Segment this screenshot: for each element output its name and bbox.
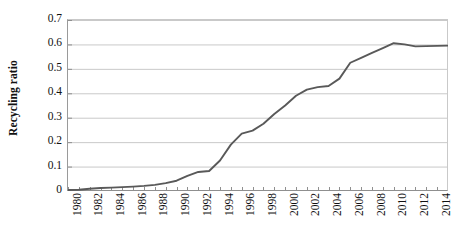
y-axis-tick-label: 0.4	[26, 87, 67, 99]
y-axis-tick-label: 0.7	[26, 13, 67, 25]
recycling-ratio-line-chart: Recycling ratio 0.70.60.50.40.30.20.10 1…	[0, 0, 462, 243]
x-axis-tick-label: 1988	[158, 193, 170, 216]
y-axis-tick-label: 0.3	[26, 111, 67, 123]
data-series-line	[68, 43, 448, 190]
x-axis-tick-label: 1980	[72, 193, 84, 216]
y-axis-title-text: Recycling ratio	[7, 60, 19, 136]
x-axis-tick-label: 2014	[441, 193, 453, 216]
y-axis-tick-label: 0.6	[26, 38, 67, 50]
x-axis-tick-label: 1996	[245, 193, 257, 216]
x-axis-tick-label: 1994	[224, 193, 236, 216]
y-axis-tick-marks	[68, 21, 72, 192]
plot-area	[67, 19, 448, 191]
x-axis-tick-labels: 1980198219841986198819901992199419961998…	[67, 193, 448, 243]
y-axis-tick-label: 0.5	[26, 62, 67, 74]
y-axis-tick-labels: 0.70.60.50.40.30.20.10	[26, 0, 67, 243]
y-axis-tick-label: 0.1	[26, 160, 67, 172]
x-axis-tick-label: 2006	[354, 193, 366, 216]
x-axis-tick-label: 2010	[397, 193, 409, 216]
x-axis-tick-label: 1984	[115, 193, 127, 216]
gridlines	[68, 21, 448, 168]
chart-canvas	[68, 20, 448, 191]
x-axis-tick-label: 2002	[310, 193, 322, 216]
x-axis-tick-label: 1982	[93, 193, 105, 216]
x-axis-tick-label: 1998	[267, 193, 279, 216]
x-axis-tick-label: 1990	[180, 193, 192, 216]
x-axis-tick-label: 1992	[202, 193, 214, 216]
x-axis-tick-label: 1986	[137, 193, 149, 216]
x-axis-tick-label: 2008	[376, 193, 388, 216]
x-axis-tick-label: 2004	[332, 193, 344, 216]
y-axis-title: Recycling ratio	[0, 0, 26, 196]
x-axis-tick-label: 2012	[419, 193, 431, 216]
x-axis-tick-label: 2000	[289, 193, 301, 216]
y-axis-tick-label: 0.2	[26, 135, 67, 147]
y-axis-tick-label: 0	[26, 184, 67, 196]
